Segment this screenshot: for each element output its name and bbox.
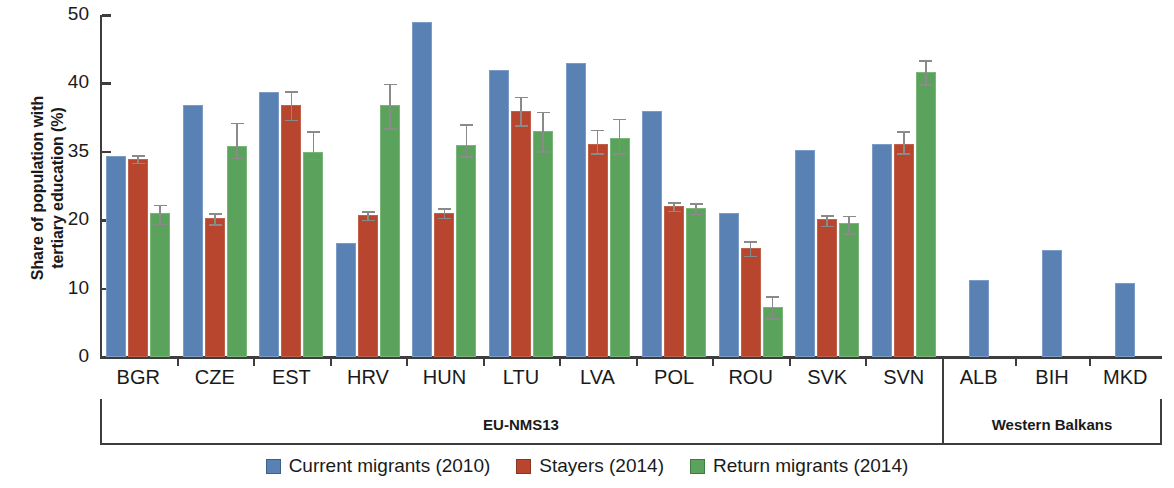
bar[interactable] [281,105,301,357]
bar[interactable] [456,145,476,357]
x-axis-tick-mark [789,356,791,366]
legend-label: Stayers (2014) [539,455,664,477]
legend-item[interactable]: Stayers (2014) [516,455,664,477]
bar[interactable] [511,111,531,357]
x-axis-category-label: EST [253,366,330,389]
bar[interactable] [588,144,608,357]
error-bar [313,131,315,160]
error-bar [772,296,774,319]
bar[interactable] [1042,250,1062,357]
error-bar-cap-bottom [821,226,834,228]
bar[interactable] [106,156,126,357]
error-bar-cap-bottom [154,224,167,226]
legend-item[interactable]: Return migrants (2014) [690,455,908,477]
bar[interactable] [664,206,684,357]
error-bar-cap-top [690,203,703,205]
bar[interactable] [795,150,815,357]
bar[interactable] [916,72,936,357]
error-bar-cap-bottom [919,84,932,86]
legend-label: Current migrants (2010) [289,455,491,477]
bar[interactable] [741,248,761,357]
bar[interactable] [489,70,509,357]
x-axis-tick-mark [253,356,255,366]
x-axis-category-label: BGR [100,366,177,389]
y-axis-title: Share of population withtertiary educati… [28,78,68,298]
error-bar-cap-bottom [307,159,320,161]
x-axis-tick-mark [559,356,561,366]
x-axis-tick-mark [1015,356,1017,366]
error-bar [848,216,850,235]
x-axis-category-label: MKD [1089,366,1162,389]
error-bar-cap-bottom [231,158,244,160]
error-bar-cap-top [231,123,244,125]
bar[interactable] [128,159,148,357]
error-bar-cap-top [843,216,856,218]
error-bar [137,155,139,164]
bar[interactable] [380,105,400,357]
error-bar [826,215,828,227]
error-bar-cap-top [744,241,757,243]
bar-group [330,15,407,357]
bar[interactable] [533,131,553,357]
error-bar [542,112,544,153]
bar[interactable] [872,144,892,357]
bar[interactable] [566,63,586,357]
error-bar-cap-top [384,84,397,86]
bar-group [100,15,177,357]
bar[interactable] [227,146,247,357]
error-bar-cap-top [438,208,451,210]
bar[interactable] [969,280,989,357]
x-axis-tick-mark [406,356,408,366]
bar[interactable] [358,215,378,357]
error-bar [520,97,522,127]
legend-label: Return migrants (2014) [713,455,908,477]
bar[interactable] [763,307,783,357]
bar[interactable] [686,208,706,357]
bar[interactable] [1115,283,1135,357]
bar[interactable] [205,218,225,357]
bar[interactable] [817,219,837,357]
error-bar-cap-bottom [209,224,222,226]
bar[interactable] [719,213,739,357]
error-bar-cap-bottom [591,153,604,155]
bar[interactable] [336,243,356,357]
error-bar [159,205,161,226]
bar[interactable] [150,213,170,357]
error-bar-cap-top [307,131,320,133]
error-bar-cap-top [460,124,473,126]
x-axis-category-label: BIH [1015,366,1088,389]
error-bar-cap-top [154,205,167,207]
error-bar [750,241,752,257]
x-axis-tick-mark [636,356,638,366]
x-axis-tick-mark [865,356,867,366]
error-bar-cap-top [897,131,910,133]
y-tick-label: 20 [68,208,89,230]
bar-groups [100,15,1162,357]
x-axis-tick-mark [330,356,332,366]
legend-item[interactable]: Current migrants (2010) [266,455,491,477]
error-bar [367,211,369,221]
x-axis-category-label: HRV [330,366,407,389]
bar-group [789,15,866,357]
x-axis-category-label: SVN [865,366,942,389]
error-bar-cap-top [209,213,222,215]
error-bar-cap-bottom [285,120,298,122]
y-tick-label: 0 [78,345,89,367]
bar[interactable] [183,105,203,357]
error-bar [695,203,697,215]
bar-group [1015,15,1088,357]
error-bar-cap-top [591,130,604,132]
error-bar-cap-top [821,215,834,217]
bar[interactable] [894,144,914,357]
bar[interactable] [303,152,323,357]
error-bar-cap-bottom [613,153,626,155]
bar[interactable] [839,223,859,357]
bar[interactable] [434,213,454,357]
bar[interactable] [610,138,630,357]
bar[interactable] [642,111,662,357]
x-axis-category-label: POL [636,366,713,389]
bar[interactable] [259,92,279,357]
error-bar-cap-bottom [362,220,375,222]
bar[interactable] [412,22,432,357]
error-bar-cap-bottom [766,318,779,320]
